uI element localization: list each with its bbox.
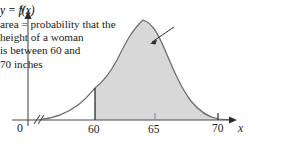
- x-tick-label-65: 65: [148, 123, 160, 135]
- probability-density-figure: y x 0 60 65 70 y = f(x) area = probabili…: [0, 0, 302, 144]
- origin-label: 0: [17, 121, 23, 136]
- annotation-text-block: area = probability that the height of a …: [0, 18, 302, 71]
- x-axis-arrowhead: [229, 117, 237, 124]
- x-axis-label: x: [238, 122, 243, 134]
- x-tick-label-70: 70: [212, 122, 224, 134]
- annotation-line-2: height of a woman: [0, 31, 302, 44]
- annotation-line-4: 70 inches: [0, 58, 302, 71]
- y-axis-label: y: [20, 2, 25, 14]
- x-tick-label-60: 60: [88, 123, 100, 135]
- annotation-line-3: is between 60 and: [0, 44, 302, 57]
- annotation-line-1: area = probability that the: [0, 18, 302, 31]
